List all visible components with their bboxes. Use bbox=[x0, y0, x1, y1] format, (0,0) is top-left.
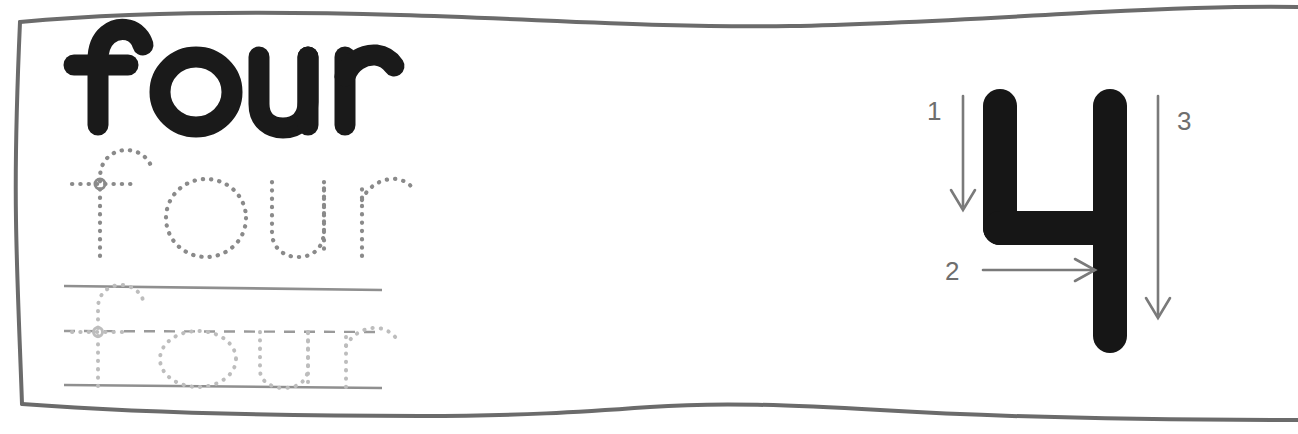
rule-top-line bbox=[64, 286, 382, 290]
stroke-label-1: 1 bbox=[927, 96, 941, 126]
stroke-label-2: 2 bbox=[945, 256, 959, 286]
worksheet-page: four four bbox=[0, 0, 1298, 434]
letter-u-dotted bbox=[272, 182, 324, 257]
rule-base-line bbox=[64, 385, 382, 388]
letter-r-arm-dotted-ruled bbox=[346, 328, 396, 346]
stroke-arrow-1 bbox=[951, 96, 975, 210]
letter-f-dotted-ruled bbox=[98, 285, 144, 386]
stroke-arrow-3 bbox=[1146, 96, 1170, 318]
row-dotted-word: four bbox=[66, 138, 486, 258]
letter-o-dotted-ruled bbox=[160, 331, 236, 387]
letter-f-solid bbox=[98, 29, 143, 125]
border-bottom-edge bbox=[22, 404, 1298, 420]
letter-r-arm-solid bbox=[345, 55, 394, 76]
row-ruled-dotted-word bbox=[56, 268, 486, 398]
letter-o-solid bbox=[160, 57, 232, 127]
solid-word-four: four bbox=[66, 18, 486, 133]
start-dot-f bbox=[95, 179, 105, 189]
ruled-practice-line bbox=[56, 268, 486, 398]
row-solid-word: four bbox=[66, 18, 486, 133]
letter-f-dotted bbox=[100, 150, 152, 256]
letter-r-arm-dotted bbox=[362, 179, 415, 200]
border-left-edge bbox=[16, 22, 22, 404]
letter-o-dotted bbox=[166, 179, 246, 257]
stroke-label-3: 3 bbox=[1177, 106, 1191, 136]
letter-u-dotted-ruled bbox=[260, 332, 308, 388]
dotted-word-four: four bbox=[66, 138, 486, 258]
numeral-four-svg: 1 2 3 bbox=[905, 78, 1225, 363]
numeral-stroke-diagram: 1 2 3 bbox=[905, 78, 1225, 363]
numeral-four-glyph bbox=[1000, 106, 1110, 336]
stroke-arrow-2 bbox=[983, 259, 1095, 281]
